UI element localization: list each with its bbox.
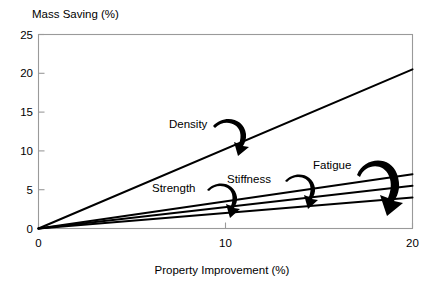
annotation-label-density: Density <box>169 118 208 130</box>
y-tick-label-25: 25 <box>20 29 33 41</box>
annotation-label-stiffness: Stiffness <box>227 173 271 185</box>
mass-saving-vs-property-improvement-chart: Mass Saving (%) 25 20 15 10 5 0 <box>0 0 440 287</box>
x-axis-title: Property Improvement (%) <box>155 264 290 276</box>
y-tick-label-0: 0 <box>27 223 33 235</box>
chart-figure: Mass Saving (%) 25 20 15 10 5 0 <box>0 0 440 287</box>
x-tick-label-0: 0 <box>35 237 41 249</box>
annotation-label-strength: Strength <box>152 182 195 194</box>
y-axis-title: Mass Saving (%) <box>32 8 119 20</box>
y-tick-label-20: 20 <box>20 67 33 79</box>
y-tick-label-5: 5 <box>27 184 33 196</box>
x-tick-label-20: 20 <box>406 237 419 249</box>
x-tick-label-10: 10 <box>219 237 232 249</box>
y-tick-label-15: 15 <box>20 106 33 118</box>
y-tick-label-10: 10 <box>20 145 33 157</box>
annotation-label-fatigue: Fatigue <box>313 159 351 171</box>
